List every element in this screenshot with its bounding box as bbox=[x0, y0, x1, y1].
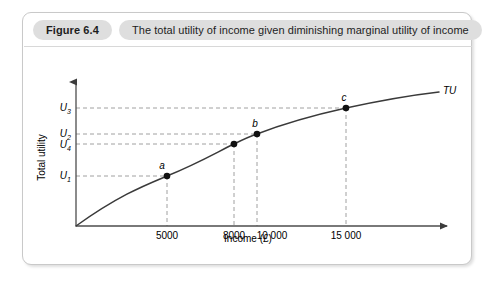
chart-plot-area: U3 U2 U4 U1 5000 8000 10 000 15 000 a b … bbox=[23, 46, 473, 265]
point-label-a: a bbox=[159, 160, 165, 171]
figure-header: Figure 6.4 The total utility of income g… bbox=[23, 13, 471, 46]
data-point-8000 bbox=[231, 141, 238, 148]
data-point-b bbox=[254, 131, 261, 138]
y-tick-label-u4: U4 bbox=[60, 139, 71, 152]
figure-caption-badge: The total utility of income given dimini… bbox=[119, 20, 482, 40]
y-tick-label-u3: U3 bbox=[60, 102, 71, 115]
figure-frame: Figure 6.4 The total utility of income g… bbox=[22, 12, 472, 265]
curve-label-tu: TU bbox=[443, 85, 456, 96]
y-tick-label-u1: U1 bbox=[60, 170, 71, 183]
figure-number-badge: Figure 6.4 bbox=[33, 20, 112, 40]
data-point-a bbox=[164, 173, 171, 180]
point-label-c: c bbox=[342, 92, 347, 103]
figure-number-label: Figure 6.4 bbox=[46, 24, 99, 36]
data-point-c bbox=[343, 105, 350, 112]
point-label-b: b bbox=[252, 118, 258, 129]
figure-screenshot: Figure 6.4 The total utility of income g… bbox=[0, 0, 494, 283]
figure-caption-text: The total utility of income given dimini… bbox=[132, 24, 469, 36]
x-axis-title: Income (£) bbox=[23, 233, 473, 244]
y-axis-title: Total utility bbox=[36, 98, 47, 218]
